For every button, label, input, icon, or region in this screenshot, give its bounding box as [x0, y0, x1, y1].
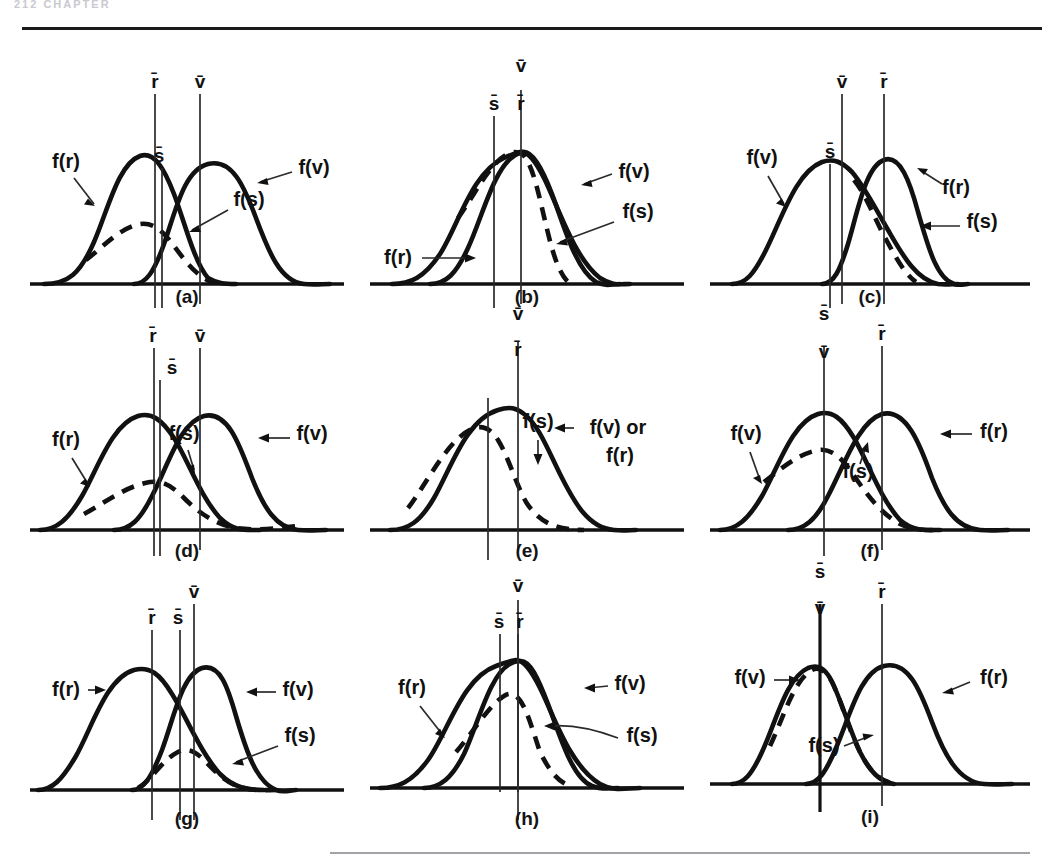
running-head: 212 CHAPTER — [14, 0, 111, 10]
mean-label-s: s̄ — [494, 611, 505, 632]
arrow-fv — [554, 424, 565, 433]
curve-label-fs: f(s) — [168, 422, 199, 444]
curve-label-fr: f(r) — [384, 246, 412, 268]
curve-label-fs: f(s) — [626, 724, 657, 746]
curve-fs — [408, 427, 584, 530]
panel-b: s̄ v̄ r̄ f(r) f(v) f(s) (b) — [362, 46, 692, 308]
panel-i: s̄ v̄ r̄ f(v) f(r) f(s) (i) — [702, 556, 1038, 826]
arrow-fs — [556, 239, 568, 246]
arrow-fv — [776, 199, 786, 208]
panel-g-plot: r̄ s̄ v̄ f(r) f(v) f(s) — [22, 556, 352, 826]
arrow-fr — [95, 686, 106, 695]
panel-h-caption: (h) — [482, 808, 572, 830]
arrow-fr — [465, 254, 476, 263]
arrow-fv — [258, 434, 269, 443]
arrow-fs — [232, 759, 244, 766]
arrow-fs — [544, 722, 555, 731]
figure-grid: r̄ s̄ v̄ f(r) f(v) f(s) (a) — [0, 36, 1061, 836]
panel-g: r̄ s̄ v̄ f(r) f(v) f(s) (g) — [22, 556, 352, 826]
curve-label-fs: f(s) — [284, 724, 315, 746]
curve-label-fr: f(r) — [980, 666, 1008, 688]
curve-label-fv: f(v) — [618, 160, 649, 182]
mean-label-v: v̄ — [513, 303, 524, 324]
mean-label-v: v̄ — [516, 55, 527, 76]
curve-label-fv-or: f(v) or — [590, 416, 647, 438]
bottom-rule — [330, 852, 1030, 854]
panel-a-plot: r̄ s̄ v̄ f(r) f(v) f(s) — [22, 46, 352, 308]
panel-f-plot: s̄ v̄ r̄ f(v) f(r) f(s) — [702, 298, 1038, 560]
curve-fv — [732, 160, 958, 284]
mean-label-v: v̄ — [819, 341, 830, 362]
panel-a-curves — [44, 155, 330, 284]
mean-label-r: r̄ — [149, 325, 157, 346]
panel-h: v̄ s̄ r̄ f(r) f(v) f(s) (h) — [362, 556, 692, 826]
mean-label-s: s̄ — [825, 141, 836, 162]
mean-label-v: v̄ — [189, 581, 200, 602]
mean-label-r: r̄ — [516, 611, 524, 632]
curve-label-fv: f(v) — [298, 156, 329, 178]
curve-label-fs: f(s) — [808, 734, 839, 756]
mean-label-r: r̄ — [514, 339, 522, 360]
curve-label-fr: f(r) — [398, 676, 426, 698]
curve-fv — [134, 163, 330, 284]
mean-label-v: v̄ — [195, 325, 206, 346]
panel-i-caption: (i) — [825, 806, 915, 828]
panel-e-plot: v̄ r̄ f(v) or f(r) f(s) — [362, 298, 692, 560]
panel-c-mean-lines — [830, 94, 884, 308]
leader-fr — [74, 178, 94, 204]
mean-label-r: r̄ — [151, 71, 159, 92]
arrow-fr — [940, 430, 951, 439]
curve-fr — [44, 155, 236, 284]
mean-label-s: s̄ — [154, 145, 165, 166]
panel-a: r̄ s̄ v̄ f(r) f(v) f(s) (a) — [22, 46, 352, 308]
arrow-fv — [584, 684, 595, 693]
top-rule — [22, 27, 1042, 30]
curve-fr — [392, 152, 630, 284]
panel-e: v̄ r̄ f(v) or f(r) f(s) (e) — [362, 298, 692, 560]
panel-c-plot: v̄ s̄ r̄ f(v) f(r) f(s) — [702, 46, 1038, 308]
curve-fs — [458, 152, 568, 282]
leader-fr — [420, 706, 442, 734]
curve-label-fs: f(s) — [966, 210, 997, 232]
curve-label-fv: f(v) — [282, 678, 313, 700]
arrow-fv — [581, 180, 593, 187]
panel-d-plot: r̄ s̄ v̄ f(r) f(v) f(s) — [22, 298, 352, 560]
arrow-fs — [534, 454, 543, 465]
panel-d: r̄ s̄ v̄ f(r) f(v) f(s) (d) — [22, 298, 352, 560]
arrow-fr — [942, 688, 954, 695]
panel-e-mean-lines — [488, 342, 518, 560]
curve-label-fr: f(r) — [942, 176, 970, 198]
curve-label-fs: f(s) — [622, 200, 653, 222]
curve-label-fv: f(v) — [746, 146, 777, 168]
curve-label-fr: f(r) — [52, 150, 80, 172]
mean-label-r: r̄ — [878, 581, 886, 602]
arrow-fv — [257, 178, 269, 185]
arrow-fs — [863, 734, 875, 741]
curve-label-fr: f(r) — [606, 444, 634, 466]
mean-label-s: s̄ — [489, 93, 500, 114]
panel-g-caption: (g) — [142, 808, 232, 830]
curve-label-fr: f(r) — [52, 428, 80, 450]
arrow-fv — [246, 688, 257, 697]
panel-h-plot: v̄ s̄ r̄ f(r) f(v) f(s) — [362, 556, 692, 826]
panel-b-curves — [392, 152, 630, 285]
mean-label-s: s̄ — [173, 607, 184, 628]
mean-label-s: s̄ — [819, 303, 830, 324]
panel-b-plot: s̄ v̄ r̄ f(r) f(v) f(s) — [362, 46, 692, 308]
curve-label-fv: f(v) — [614, 672, 645, 694]
curve-label-fs: f(s) — [522, 410, 553, 432]
panel-f: s̄ v̄ r̄ f(v) f(r) f(s) (f) — [702, 298, 1038, 560]
curve-label-fv: f(v) — [296, 422, 327, 444]
mean-label-r: r̄ — [880, 71, 888, 92]
panel-b-mean-lines — [494, 90, 521, 308]
curve-label-fs: f(s) — [842, 460, 873, 482]
panel-i-plot: s̄ v̄ r̄ f(v) f(r) f(s) — [702, 556, 1038, 826]
panel-c: v̄ s̄ r̄ f(v) f(r) f(s) (c) — [702, 46, 1038, 308]
curve-label-fv: f(v) — [734, 666, 765, 688]
mean-label-s: s̄ — [815, 561, 826, 582]
curve-fv — [424, 661, 618, 789]
mean-label-s: s̄ — [167, 357, 178, 378]
curve-fv — [114, 415, 326, 530]
panel-d-mean-lines — [154, 348, 200, 556]
mean-label-r: r̄ — [148, 607, 156, 628]
